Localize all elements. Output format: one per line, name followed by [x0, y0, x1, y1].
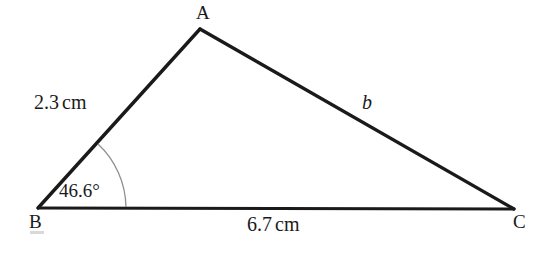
side-variable-label-ac: b [362, 92, 372, 112]
side-ab-value: 2.3 [34, 91, 59, 113]
triangle-figure: A B C 2.3cm 6.7cm b 46.6° [0, 0, 546, 255]
side-length-label-ab: 2.3cm [34, 92, 86, 112]
edge-ac [200, 29, 514, 209]
side-bc-unit: cm [275, 213, 299, 235]
side-bc-value: 6.7 [247, 213, 272, 235]
side-ab-unit: cm [62, 91, 86, 113]
triangle-edges [38, 29, 514, 209]
vertex-label-c: C [513, 212, 526, 231]
vertex-label-b: B [29, 212, 42, 231]
angle-arc-b [98, 144, 126, 207]
side-length-label-bc: 6.7cm [247, 214, 299, 234]
angle-measure-label-b: 46.6° [59, 181, 100, 200]
edge-bc [38, 208, 514, 209]
vertex-label-a: A [196, 3, 210, 22]
